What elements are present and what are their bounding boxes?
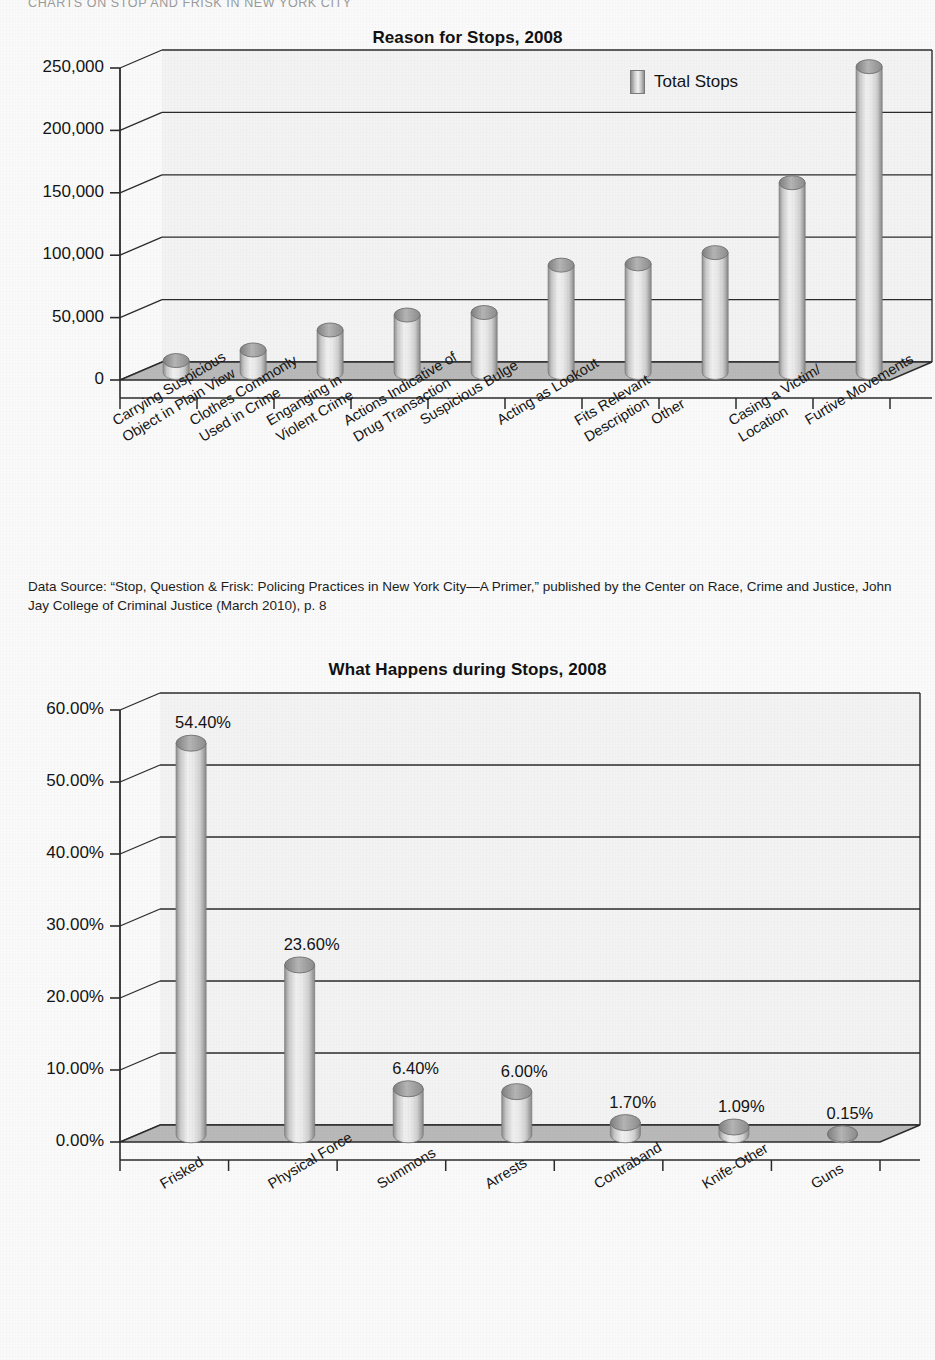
chart-reason-for-stops: Reason for Stops, 2008 Total Stops Carry… <box>0 28 935 588</box>
chart2-value-label: 23.60% <box>284 935 340 954</box>
chart2-category-label: Contraband <box>591 1139 665 1193</box>
chart1-category-labels: Carrying SuspiciousObject in Plain ViewC… <box>0 48 935 588</box>
chart2-value-label: 1.09% <box>718 1097 765 1116</box>
chart1-title: Reason for Stops, 2008 <box>0 28 935 48</box>
chart2-value-label: 1.70% <box>609 1093 656 1112</box>
chart2-ytick-label: 40.00% <box>0 843 104 863</box>
chart2-category-labels: FriskedPhysical ForceSummonsArrestsContr… <box>0 680 935 1360</box>
chart2-category-label-line: Contraband <box>591 1139 665 1193</box>
chart1-ytick-label: 50,000 <box>0 307 104 327</box>
chart2-ytick-label: 0.00% <box>0 1131 104 1151</box>
chart2-ytick-label: 10.00% <box>0 1059 104 1079</box>
chart2-category-label: Summons <box>374 1144 439 1192</box>
chart2-category-label-line: Summons <box>374 1144 439 1192</box>
chart2-title: What Happens during Stops, 2008 <box>0 660 935 680</box>
chart2-category-label-line: Frisked <box>157 1154 207 1193</box>
chart1-ytick-label: 0 <box>0 369 104 389</box>
chart1-ytick-label: 150,000 <box>0 182 104 202</box>
chart-what-happens-during-stops: What Happens during Stops, 2008 FriskedP… <box>0 660 935 1360</box>
chart2-category-label-line: Physical Force <box>265 1129 355 1193</box>
chart2-ytick-label: 50.00% <box>0 771 104 791</box>
chart2-category-label-line: Arrests <box>482 1154 530 1192</box>
chart2-category-label: Physical Force <box>265 1129 355 1193</box>
chart1-ytick-label: 200,000 <box>0 119 104 139</box>
chart2-plot-area: FriskedPhysical ForceSummonsArrestsContr… <box>0 680 935 1360</box>
chart2-value-label: 6.40% <box>392 1059 439 1078</box>
chart2-category-label-line: Guns <box>808 1160 846 1192</box>
chart2-ytick-label: 60.00% <box>0 699 104 719</box>
chart1-plot-area: Total Stops Carrying SuspiciousObject in… <box>0 48 935 588</box>
chart1-ytick-label: 250,000 <box>0 57 104 77</box>
chart1-category-label: Fits RelevantDescription <box>571 370 663 446</box>
data-source-caption: Data Source: “Stop, Question & Frisk: Po… <box>28 578 908 615</box>
chart2-category-label: Frisked <box>157 1154 207 1193</box>
chart2-value-label: 0.15% <box>827 1104 874 1123</box>
chart2-ytick-label: 30.00% <box>0 915 104 935</box>
chart2-value-label: 6.00% <box>501 1062 548 1081</box>
chart2-category-label-line: Knife-Other <box>699 1140 771 1193</box>
chart2-value-label: 54.40% <box>175 713 231 732</box>
chart1-ytick-label: 100,000 <box>0 244 104 264</box>
chart2-category-label: Knife-Other <box>699 1140 771 1193</box>
chart2-category-label: Arrests <box>482 1154 530 1192</box>
chart2-ytick-label: 20.00% <box>0 987 104 1007</box>
running-header: CHARTS ON STOP AND FRISK IN NEW YORK CIT… <box>28 0 352 10</box>
chart2-category-label: Guns <box>808 1160 846 1192</box>
